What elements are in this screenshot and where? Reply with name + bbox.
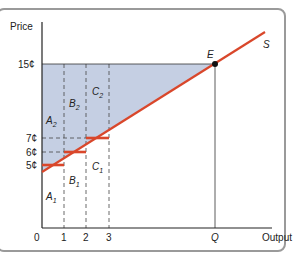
equilibrium-point xyxy=(212,61,218,67)
x-tick-2: 2 xyxy=(83,232,89,243)
y-tick-7: 7¢ xyxy=(26,133,37,144)
equilibrium-label: E xyxy=(207,49,214,60)
y-axis-label: Price xyxy=(10,21,33,32)
x-tick-0: 0 xyxy=(34,232,40,243)
supply-label: S xyxy=(263,39,270,50)
y-tick-6: 6¢ xyxy=(26,147,37,158)
supply-chart: Price Output 0 1 2 3 Q 15¢ 7¢ 6¢ 5¢ S E … xyxy=(0,0,296,256)
y-tick-15: 15¢ xyxy=(18,59,35,70)
x-tick-1: 1 xyxy=(61,232,67,243)
y-tick-5: 5¢ xyxy=(26,160,37,171)
x-axis-label: Output xyxy=(262,232,292,243)
x-tick-3: 3 xyxy=(106,232,112,243)
x-tick-q: Q xyxy=(211,232,219,243)
